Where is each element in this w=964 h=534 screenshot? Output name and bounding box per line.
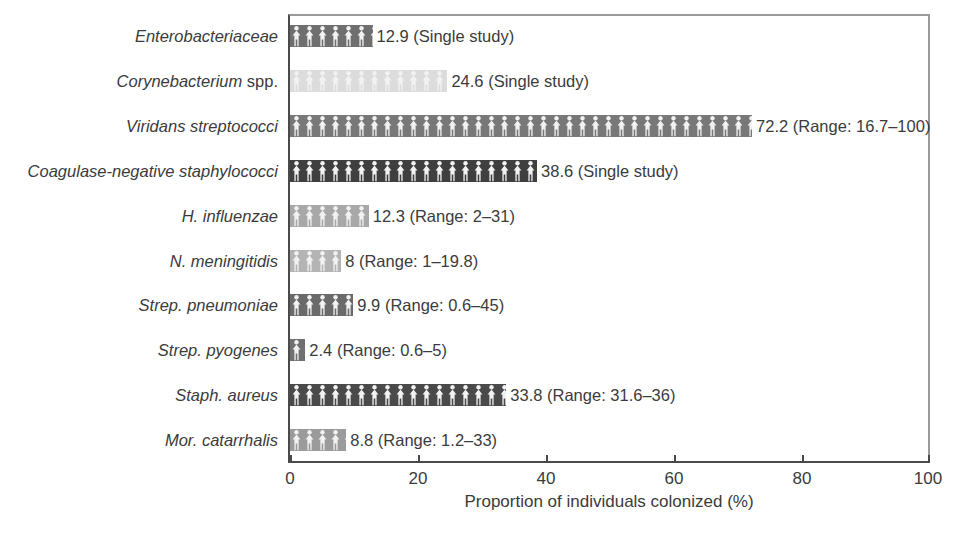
bar-chart-figure: Enterobacteriaceae12.9 (Single study)Cor…	[0, 0, 964, 534]
category-label-upright: spp.	[242, 72, 278, 90]
bar-value-label: 12.3 (Range: 2–31)	[373, 194, 515, 238]
bar	[290, 205, 369, 227]
category-label: Strep. pneumoniae	[0, 283, 278, 327]
bar-row: Staph. aureus33.8 (Range: 31.6–36)	[0, 373, 964, 417]
axis-tick-label: 40	[537, 469, 556, 489]
category-label: Mor. catarrhalis	[0, 418, 278, 462]
category-label-italic: Corynebacterium	[117, 72, 243, 90]
axis-tick	[546, 455, 548, 463]
category-label-italic: N. meningitidis	[170, 252, 278, 270]
bar-row: N. meningitidis8 (Range: 1–19.8)	[0, 239, 964, 283]
category-label-italic: H. influenzae	[182, 207, 278, 225]
category-label-italic: Enterobacteriaceae	[135, 27, 278, 45]
category-label: Viridans streptococci	[0, 104, 278, 148]
bar-value-label: 24.6 (Single study)	[451, 59, 589, 103]
axis-tick	[674, 455, 676, 463]
axis-tick-label: 0	[285, 469, 294, 489]
category-label-italic: Viridans streptococci	[126, 117, 278, 135]
category-label-italic: Strep. pneumoniae	[139, 296, 278, 314]
axis-tick	[928, 455, 930, 463]
axis-tick	[802, 455, 804, 463]
category-label: Corynebacterium spp.	[0, 59, 278, 103]
category-label: H. influenzae	[0, 194, 278, 238]
bar-row: Viridans streptococci72.2 (Range: 16.7–1…	[0, 104, 964, 148]
bar-value-label: 2.4 (Range: 0.6–5)	[309, 328, 447, 372]
bar	[290, 25, 373, 47]
bar-value-label: 9.9 (Range: 0.6–45)	[357, 283, 504, 327]
axis-tick	[290, 455, 292, 463]
bar	[290, 294, 353, 316]
bar-row: Mor. catarrhalis8.8 (Range: 1.2–33)	[0, 418, 964, 462]
category-label-italic: Strep. pyogenes	[158, 341, 278, 359]
axis-tick-label: 60	[665, 469, 684, 489]
category-label: N. meningitidis	[0, 239, 278, 283]
axis-tick	[418, 455, 420, 463]
bar-value-label: 72.2 (Range: 16.7–100)	[756, 104, 930, 148]
bar	[290, 115, 752, 137]
category-label-italic: Staph. aureus	[175, 386, 278, 404]
bar	[290, 429, 346, 451]
bar-value-label: 38.6 (Single study)	[541, 149, 679, 193]
bar-row: Strep. pyogenes2.4 (Range: 0.6–5)	[0, 328, 964, 372]
x-axis-title: Proportion of individuals colonized (%)	[288, 492, 930, 512]
bar-row: Enterobacteriaceae12.9 (Single study)	[0, 14, 964, 58]
bar	[290, 250, 341, 272]
axis-tick-label: 80	[793, 469, 812, 489]
category-label: Strep. pyogenes	[0, 328, 278, 372]
bar-value-label: 12.9 (Single study)	[377, 14, 515, 58]
category-label: Coagulase-negative staphylococci	[0, 149, 278, 193]
bar	[290, 339, 305, 361]
x-axis: 020406080100	[288, 463, 930, 464]
bar-row: Strep. pneumoniae9.9 (Range: 0.6–45)	[0, 283, 964, 327]
category-label-italic: Coagulase-negative staphylococci	[28, 162, 278, 180]
category-label-italic: Mor. catarrhalis	[165, 431, 278, 449]
axis-tick-label: 20	[409, 469, 428, 489]
bar-row: H. influenzae12.3 (Range: 2–31)	[0, 194, 964, 238]
bar-row: Corynebacterium spp.24.6 (Single study)	[0, 59, 964, 103]
bar-row: Coagulase-negative staphylococci38.6 (Si…	[0, 149, 964, 193]
bar-value-label: 33.8 (Range: 31.6–36)	[510, 373, 675, 417]
axis-tick-label: 100	[914, 469, 942, 489]
bar	[290, 160, 537, 182]
category-label: Staph. aureus	[0, 373, 278, 417]
bar	[290, 384, 506, 406]
bar	[290, 70, 447, 92]
bar-value-label: 8.8 (Range: 1.2–33)	[350, 418, 497, 462]
category-label: Enterobacteriaceae	[0, 14, 278, 58]
bar-value-label: 8 (Range: 1–19.8)	[345, 239, 478, 283]
